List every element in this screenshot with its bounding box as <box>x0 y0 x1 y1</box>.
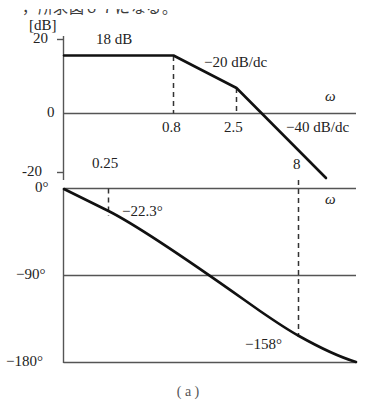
phase-xtick-0p25: 0.25 <box>92 156 118 171</box>
phase-annotation-minus158: −158° <box>245 337 282 352</box>
magnitude-ytick-20: 20 <box>33 31 48 46</box>
phase-ytick-0: 0° <box>35 180 49 195</box>
bode-plot-canvas <box>0 0 376 419</box>
magnitude-omega-axis-label: ω <box>325 89 336 104</box>
phase-xtick-8: 8 <box>293 157 301 172</box>
magnitude-ytick-minus20: -20 <box>22 164 42 179</box>
magnitude-ytick-0: 0 <box>47 105 55 120</box>
bode-plot-figure: ，所求図６７になる。 <box>0 0 376 419</box>
phase-ytick-minus180: −180° <box>6 354 43 369</box>
phase-annotation-minus22: −22.3° <box>122 204 163 219</box>
phase-plot-group <box>64 180 357 363</box>
magnitude-annotation-slope-40: −40 dB/dc <box>286 120 349 135</box>
magnitude-xtick-2p5: 2.5 <box>224 120 243 135</box>
phase-omega-axis-label: ω <box>325 192 336 207</box>
magnitude-xtick-0p8: 0.8 <box>162 120 181 135</box>
magnitude-annotation-slope-20: −20 dB/dc <box>204 55 267 70</box>
phase-ytick-minus90: −90° <box>16 267 45 282</box>
figure-caption: ( a ) <box>0 384 376 400</box>
magnitude-annotation-18db: 18 dB <box>96 32 132 47</box>
